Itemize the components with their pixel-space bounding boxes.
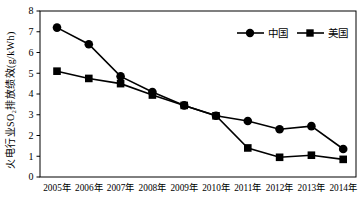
y-axis-tick-label: 8 <box>29 5 34 16</box>
x-axis-tick-label: 2006年 <box>75 182 103 193</box>
data-point-美国-2010年 <box>212 112 220 120</box>
data-point-美国-2008年 <box>149 91 157 99</box>
legend-item-china: 中国 <box>237 25 288 40</box>
y-axis-title: 火电行业SO₂排放绩效(g/kWh) <box>2 31 17 168</box>
data-point-美国-2006年 <box>85 75 93 83</box>
data-point-中国-2013年 <box>307 122 316 131</box>
square-marker-icon <box>297 28 324 38</box>
legend-item-usa: 美国 <box>297 25 348 40</box>
x-axis-tick-label: 2012年 <box>266 182 294 193</box>
y-axis-tick-label: 5 <box>29 68 34 79</box>
chart-legend: 中国 美国 <box>237 25 348 40</box>
data-point-中国-2012年 <box>275 125 284 134</box>
y-axis-tick-label: 7 <box>29 26 34 37</box>
series-line-中国 <box>57 28 343 149</box>
x-axis-tick-label: 2005年 <box>43 182 71 193</box>
x-axis-tick-label: 2009年 <box>170 182 198 193</box>
data-point-中国-2007年 <box>116 72 125 81</box>
y-axis-tick-label: 0 <box>29 171 34 182</box>
series-line-美国 <box>57 71 343 159</box>
data-point-美国-2009年 <box>180 102 188 110</box>
so2-emission-performance-chart: 0123456782005年2006年2007年2008年2009年2010年2… <box>0 0 363 198</box>
legend-label-usa: 美国 <box>328 25 348 40</box>
legend-label-china: 中国 <box>268 25 288 40</box>
data-point-中国-2014年 <box>339 145 348 154</box>
data-point-中国-2006年 <box>85 40 94 49</box>
y-axis-tick-label: 1 <box>29 151 34 162</box>
data-point-美国-2014年 <box>339 156 347 164</box>
data-point-中国-2011年 <box>244 117 253 126</box>
y-axis-tick-label: 3 <box>29 109 34 120</box>
data-point-美国-2011年 <box>244 144 252 152</box>
circle-marker-icon <box>237 28 264 38</box>
data-point-美国-2007年 <box>117 80 125 88</box>
x-axis-tick-label: 2008年 <box>139 182 167 193</box>
x-axis-tick-label: 2010年 <box>202 182 230 193</box>
y-axis-tick-label: 2 <box>29 130 34 141</box>
x-axis-tick-label: 2011年 <box>234 182 261 193</box>
y-axis-tick-label: 4 <box>29 88 34 99</box>
data-point-美国-2012年 <box>276 153 284 161</box>
x-axis-tick-label: 2013年 <box>298 182 326 193</box>
data-point-美国-2013年 <box>308 151 316 159</box>
y-axis-tick-label: 6 <box>29 47 34 58</box>
x-axis-tick-label: 2014年 <box>329 182 357 193</box>
data-point-中国-2005年 <box>53 23 62 32</box>
data-point-美国-2005年 <box>53 67 61 75</box>
x-axis-tick-label: 2007年 <box>107 182 135 193</box>
